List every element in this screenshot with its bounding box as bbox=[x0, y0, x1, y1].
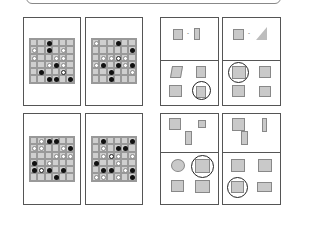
board-cell[interactable] bbox=[107, 46, 114, 53]
board-cell[interactable] bbox=[66, 144, 73, 151]
board-cell[interactable] bbox=[37, 144, 44, 151]
board-cell[interactable] bbox=[114, 137, 121, 144]
board-cell[interactable] bbox=[99, 144, 106, 151]
board-cell[interactable] bbox=[121, 152, 128, 159]
board-cell[interactable] bbox=[66, 159, 73, 166]
board-cell[interactable] bbox=[114, 39, 121, 46]
board-cell[interactable] bbox=[121, 166, 128, 173]
board-cell[interactable] bbox=[107, 137, 114, 144]
board-cell[interactable] bbox=[114, 144, 121, 151]
board-cell[interactable] bbox=[52, 152, 59, 159]
board-cell[interactable] bbox=[92, 152, 99, 159]
board-cell[interactable] bbox=[107, 173, 114, 180]
board-cell[interactable] bbox=[114, 68, 121, 75]
board-cell[interactable] bbox=[66, 54, 73, 61]
board-cell[interactable] bbox=[30, 54, 37, 61]
board-cell[interactable] bbox=[52, 144, 59, 151]
board-cell[interactable] bbox=[92, 46, 99, 53]
board-cell[interactable] bbox=[37, 152, 44, 159]
board-cell[interactable] bbox=[99, 68, 106, 75]
board-cell[interactable] bbox=[45, 46, 52, 53]
board-cell[interactable] bbox=[92, 144, 99, 151]
board-cell[interactable] bbox=[66, 173, 73, 180]
board-cell[interactable] bbox=[128, 152, 135, 159]
board-cell[interactable] bbox=[99, 46, 106, 53]
board-cell[interactable] bbox=[45, 159, 52, 166]
board-cell[interactable] bbox=[59, 159, 66, 166]
board-cell[interactable] bbox=[45, 68, 52, 75]
board-cell[interactable] bbox=[114, 152, 121, 159]
board-cell[interactable] bbox=[59, 75, 66, 82]
board-cell[interactable] bbox=[92, 61, 99, 68]
board-cell[interactable] bbox=[92, 173, 99, 180]
board-cell[interactable] bbox=[45, 137, 52, 144]
board-cell[interactable] bbox=[30, 173, 37, 180]
board-cell[interactable] bbox=[45, 39, 52, 46]
board-cell[interactable] bbox=[121, 39, 128, 46]
board-cell[interactable] bbox=[114, 54, 121, 61]
option-b[interactable] bbox=[196, 66, 206, 78]
board-cell[interactable] bbox=[45, 166, 52, 173]
board-cell[interactable] bbox=[30, 46, 37, 53]
option-c[interactable] bbox=[171, 180, 184, 192]
board-cell[interactable] bbox=[45, 75, 52, 82]
board-cell[interactable] bbox=[128, 159, 135, 166]
board-cell[interactable] bbox=[92, 75, 99, 82]
board-cell[interactable] bbox=[37, 39, 44, 46]
board-cell[interactable] bbox=[66, 46, 73, 53]
board-cell[interactable] bbox=[66, 39, 73, 46]
board-cell[interactable] bbox=[99, 39, 106, 46]
board-cell[interactable] bbox=[52, 61, 59, 68]
board-cell[interactable] bbox=[121, 173, 128, 180]
board-cell[interactable] bbox=[114, 159, 121, 166]
board-cell[interactable] bbox=[66, 152, 73, 159]
board-cell[interactable] bbox=[121, 68, 128, 75]
board-cell[interactable] bbox=[107, 144, 114, 151]
board-cell[interactable] bbox=[66, 61, 73, 68]
board-cell[interactable] bbox=[30, 39, 37, 46]
board-cell[interactable] bbox=[92, 54, 99, 61]
board-cell[interactable] bbox=[37, 68, 44, 75]
board-cell[interactable] bbox=[52, 46, 59, 53]
board-cell[interactable] bbox=[52, 54, 59, 61]
board-cell[interactable] bbox=[92, 166, 99, 173]
board-cell[interactable] bbox=[52, 173, 59, 180]
board-cell[interactable] bbox=[30, 61, 37, 68]
board-cell[interactable] bbox=[52, 137, 59, 144]
board-cell[interactable] bbox=[52, 159, 59, 166]
board-cell[interactable] bbox=[66, 166, 73, 173]
option-b[interactable] bbox=[259, 66, 271, 78]
board-cell[interactable] bbox=[52, 68, 59, 75]
option-a[interactable] bbox=[231, 159, 245, 172]
board-cell[interactable] bbox=[128, 54, 135, 61]
board-cell[interactable] bbox=[99, 61, 106, 68]
board-cell[interactable] bbox=[37, 159, 44, 166]
board-cell[interactable] bbox=[121, 54, 128, 61]
board-cell[interactable] bbox=[99, 137, 106, 144]
board-cell[interactable] bbox=[30, 144, 37, 151]
board-cell[interactable] bbox=[99, 152, 106, 159]
board-cell[interactable] bbox=[37, 173, 44, 180]
board-cell[interactable] bbox=[66, 68, 73, 75]
option-c[interactable] bbox=[169, 85, 182, 97]
board-cell[interactable] bbox=[99, 166, 106, 173]
board-cell[interactable] bbox=[99, 75, 106, 82]
board-cell[interactable] bbox=[107, 159, 114, 166]
board-cell[interactable] bbox=[59, 166, 66, 173]
board-cell[interactable] bbox=[37, 166, 44, 173]
board-cell[interactable] bbox=[107, 75, 114, 82]
board-cell[interactable] bbox=[99, 159, 106, 166]
board-cell[interactable] bbox=[128, 46, 135, 53]
board-cell[interactable] bbox=[45, 61, 52, 68]
board-cell[interactable] bbox=[30, 159, 37, 166]
board-cell[interactable] bbox=[92, 39, 99, 46]
board-cell[interactable] bbox=[37, 137, 44, 144]
board-cell[interactable] bbox=[121, 159, 128, 166]
board-cell[interactable] bbox=[107, 61, 114, 68]
board-cell[interactable] bbox=[30, 152, 37, 159]
board-cell[interactable] bbox=[59, 137, 66, 144]
option-d[interactable] bbox=[259, 86, 271, 97]
board-cell[interactable] bbox=[37, 75, 44, 82]
option-c[interactable] bbox=[232, 85, 245, 97]
board-cell[interactable] bbox=[99, 54, 106, 61]
